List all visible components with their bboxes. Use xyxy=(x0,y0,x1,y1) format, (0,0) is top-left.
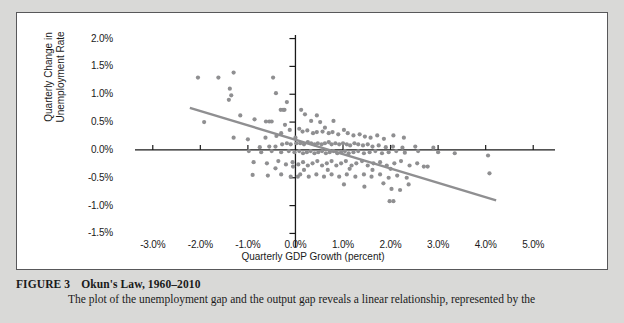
scatter-point xyxy=(354,161,358,165)
x-axis-tick-label: 4.0% xyxy=(464,239,508,250)
scatter-point xyxy=(259,150,263,154)
scatter-point xyxy=(400,146,404,150)
x-axis-tick-label: 2.0% xyxy=(369,239,413,250)
scatter-point xyxy=(363,134,367,138)
y-axis-title-line2: Unemployment Rate xyxy=(55,3,67,151)
scatter-point xyxy=(389,187,393,191)
scatter-point xyxy=(291,165,295,169)
scatter-point xyxy=(294,141,298,145)
scatter-point xyxy=(238,113,242,117)
scatter-point xyxy=(227,98,231,102)
scatter-point xyxy=(337,142,341,146)
scatter-point xyxy=(392,161,396,165)
scatter-point xyxy=(339,161,343,165)
scatter-point xyxy=(318,120,322,124)
scatter-point xyxy=(312,151,316,155)
scatter-point xyxy=(329,142,333,146)
plot-area: 2.0%1.5%1.0%0.5%0.0%-0.5%-1.0%-1.5% -3.0… xyxy=(17,13,609,271)
scatter-point xyxy=(366,142,370,146)
figure-panel: 2.0%1.5%1.0%0.5%0.0%-0.5%-1.0%-1.5% -3.0… xyxy=(16,12,608,270)
scatter-point xyxy=(377,143,381,147)
scatter-point xyxy=(303,112,307,116)
scatter-point xyxy=(453,151,457,155)
scatter-point xyxy=(270,149,274,153)
y-axis-tick-label: 2.0% xyxy=(67,33,113,44)
scatter-point xyxy=(306,163,310,167)
scatter-point xyxy=(366,163,370,167)
scatter-point xyxy=(391,133,395,137)
scatter-point xyxy=(322,175,326,179)
axes-group xyxy=(135,35,555,247)
scatter-point xyxy=(273,166,277,170)
scatter-point xyxy=(403,151,407,155)
scatter-point xyxy=(375,133,379,137)
scatter-point xyxy=(315,113,319,117)
scatter-point xyxy=(436,150,440,154)
x-axis-title: Quarterly GDP Growth (percent) xyxy=(17,251,609,262)
scatter-point xyxy=(292,150,296,154)
x-axis-tick-label: -2.0% xyxy=(178,239,222,250)
scatter-point xyxy=(202,120,206,124)
scatter-point xyxy=(387,176,391,180)
scatter-point xyxy=(287,149,291,153)
y-axis-title: Quarterly Change inUnemployment Rate xyxy=(43,3,67,151)
scatter-point xyxy=(267,144,271,148)
scatter-point xyxy=(361,143,365,147)
scatter-point xyxy=(310,161,314,165)
scatter-point xyxy=(487,171,491,175)
scatter-point xyxy=(325,161,329,165)
scatter-point xyxy=(373,149,377,153)
scatter-point xyxy=(279,150,283,154)
scatter-point xyxy=(402,136,406,140)
scatter-point xyxy=(407,163,411,167)
trendline xyxy=(190,108,496,200)
scatter-point xyxy=(320,163,324,167)
scatter-point xyxy=(309,119,313,123)
y-axis-tick-label: 1.5% xyxy=(67,60,113,71)
scatter-point xyxy=(271,75,275,79)
scatter-point xyxy=(388,199,392,203)
caption-heading: FIGURE 3Okun's Law, 1960–2010 xyxy=(16,278,616,290)
scatter-point xyxy=(289,175,293,179)
figure-caption: FIGURE 3Okun's Law, 1960–2010 The plot o… xyxy=(16,278,616,306)
scatter-point xyxy=(265,161,269,165)
y-axis-tick-label: 0.0% xyxy=(67,144,113,155)
scatter-point xyxy=(228,87,232,91)
scatter-point xyxy=(320,149,324,153)
scatter-point xyxy=(415,161,419,165)
scatter-point xyxy=(337,175,341,179)
caption-figure-number: FIGURE 3 xyxy=(16,278,70,290)
scatter-point xyxy=(285,141,289,145)
scatter-point xyxy=(315,159,319,163)
scatter-point xyxy=(288,128,292,132)
scatter-points-group xyxy=(196,70,492,203)
scatter-point xyxy=(252,160,256,164)
scatter-point xyxy=(431,146,435,150)
scatter-point xyxy=(296,162,300,166)
scatter-point xyxy=(232,70,236,74)
scatter-point xyxy=(276,159,280,163)
figure-page: 2.0%1.5%1.0%0.5%0.0%-0.5%-1.0%-1.5% -3.0… xyxy=(0,0,624,323)
scatter-point xyxy=(283,123,287,127)
scatter-point xyxy=(273,144,277,148)
scatter-point xyxy=(351,150,355,154)
scatter-point xyxy=(405,176,409,180)
scatter-point xyxy=(326,168,330,172)
y-axis-tick-label: -1.5% xyxy=(67,227,113,238)
scatter-point xyxy=(348,167,352,171)
scatter-point xyxy=(398,188,402,192)
scatter-point xyxy=(336,132,340,136)
scatter-point xyxy=(351,133,355,137)
scatter-point xyxy=(309,149,313,153)
scatter-point xyxy=(344,159,348,163)
scatter-point xyxy=(345,172,349,176)
scatter-point xyxy=(316,141,320,145)
scatter-point xyxy=(378,172,382,176)
y-axis-tick-label: -1.0% xyxy=(67,200,113,211)
caption-body-text: The plot of the unemployment gap and the… xyxy=(68,293,616,306)
scatter-point xyxy=(323,141,327,145)
scatter-point xyxy=(342,182,346,186)
scatter-point xyxy=(274,91,278,95)
x-axis-tick-label: 5.0% xyxy=(511,239,555,250)
scatter-point xyxy=(362,151,366,155)
